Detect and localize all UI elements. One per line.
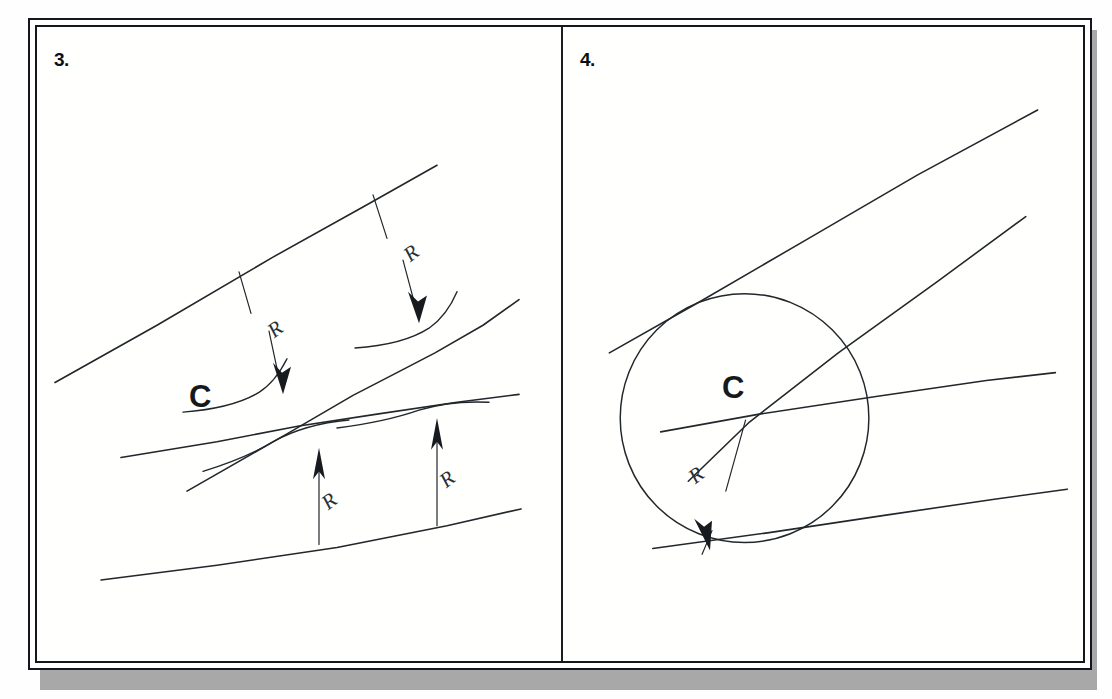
panel-problem-4: 4. xyxy=(562,27,1083,661)
line-lowest xyxy=(101,509,521,580)
panel-4-center-label: C xyxy=(722,370,744,406)
worksheet-card: 3. xyxy=(28,18,1092,670)
fillet-arc-2 xyxy=(355,292,457,348)
line-middle xyxy=(661,373,1056,432)
panel-problem-3: 3. xyxy=(37,27,561,661)
line-second xyxy=(187,300,519,492)
line-construction xyxy=(688,217,1025,482)
panel-3-center-label: C xyxy=(189,379,211,415)
arrowhead-2 xyxy=(408,292,427,324)
line-lower-tangent xyxy=(653,489,1067,548)
fillet-arc-3 xyxy=(203,420,349,471)
line-upper-left xyxy=(55,165,437,382)
line-third xyxy=(121,394,519,457)
leader-shaft-2 xyxy=(403,260,413,298)
fillet-arc-4 xyxy=(337,402,489,428)
line-upper-tangent xyxy=(609,110,1037,353)
radius-leader-shaft xyxy=(726,420,746,491)
panel-4-sketch xyxy=(562,27,1083,661)
worksheet-inner-border: 3. xyxy=(35,25,1085,663)
tangent-circle xyxy=(620,294,869,543)
scanned-page: 3. xyxy=(0,0,1112,699)
panel-3-sketch xyxy=(37,27,561,661)
leader-tick-1 xyxy=(239,272,251,313)
radius-arrowhead xyxy=(694,519,712,551)
leader-tick-2 xyxy=(373,195,387,238)
